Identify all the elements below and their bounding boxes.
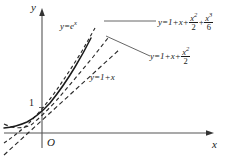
taylor3-fraction-1: x2 2 xyxy=(189,14,198,32)
taylor3-prefix: y=1+x+ xyxy=(158,17,189,27)
curve-exponential xyxy=(4,38,91,128)
taylor3-frac1-num-exponent: 2 xyxy=(194,11,197,18)
origin-label: O xyxy=(47,137,55,148)
taylor1-text: y=1+x xyxy=(90,72,115,82)
taylor3-frac2-denominator: 6 xyxy=(204,23,213,32)
curve-label-taylor3: y=1+x+ x2 2 + x3 6 xyxy=(158,14,214,32)
leader-line-taylor2 xyxy=(106,36,150,56)
curve-taylor1 xyxy=(4,49,120,155)
taylor2-frac1-denominator: 2 xyxy=(181,57,190,66)
y-axis-label: y xyxy=(31,2,36,13)
taylor-series-figure: y x O 1 y=ex y=1+x y=1+x+ x2 2 y=1+x+ x2… xyxy=(0,0,226,167)
curve-label-taylor2: y=1+x+ x2 2 xyxy=(150,48,191,66)
exponential-exponent: x xyxy=(74,19,77,26)
x-axis-label: x xyxy=(212,139,217,150)
taylor3-plus-sign: + xyxy=(199,17,204,27)
taylor3-frac1-denominator: 2 xyxy=(189,23,198,32)
x-axis-arrowhead xyxy=(206,130,214,136)
taylor3-frac2-num-exponent: 3 xyxy=(209,11,212,18)
y-tick-label-one: 1 xyxy=(29,98,34,108)
y-axis-arrowhead xyxy=(39,8,45,16)
curve-label-exponential: y=ex xyxy=(60,22,77,31)
taylor3-fraction-2: x3 6 xyxy=(204,14,213,32)
exponential-lhs: y= xyxy=(60,21,70,31)
curve-taylor2 xyxy=(4,38,108,128)
taylor2-fraction-1: x2 2 xyxy=(181,48,190,66)
curve-label-taylor1: y=1+x xyxy=(90,73,115,82)
taylor2-frac1-num-exponent: 2 xyxy=(186,45,189,52)
taylor2-prefix: y=1+x+ xyxy=(150,51,181,61)
leader-lines-group xyxy=(104,21,156,56)
